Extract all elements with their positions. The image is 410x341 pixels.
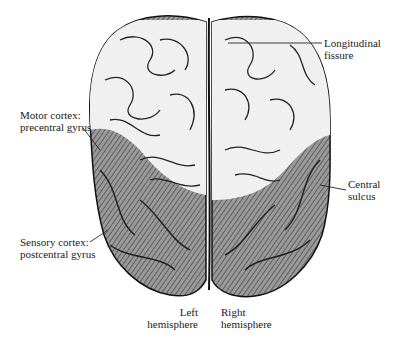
label-line: Longitudinal [324,37,381,49]
label-line: hemisphere [221,318,272,330]
label-line: Motor cortex: [20,109,91,121]
label-line: postcentral gyrus [20,248,95,260]
label-line: precentral gyrus [20,121,91,133]
right-hemisphere-shape [212,17,330,297]
label-line: Right [221,306,272,318]
label-line: fissure [324,49,381,61]
label-line: Sensory cortex: [20,236,95,248]
label-motor-cortex: Motor cortex: precentral gyrus [20,109,91,133]
label-line: Central [348,178,380,190]
label-right-hemisphere: Right hemisphere [221,306,272,330]
label-left-hemisphere: Left hemisphere [147,306,198,330]
label-line: Left [147,306,198,318]
label-central-sulcus: Central sulcus [348,178,380,202]
fissure-line [209,18,210,290]
left-hemisphere-shape [90,16,206,296]
label-line: hemisphere [147,318,198,330]
label-line: sulcus [348,190,380,202]
label-sensory-cortex: Sensory cortex: postcentral gyrus [20,236,95,260]
label-longitudinal-fissure: Longitudinal fissure [324,37,381,61]
